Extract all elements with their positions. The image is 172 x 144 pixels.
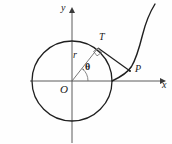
x-axis-label: x [162, 80, 166, 90]
y-axis-arrowhead [69, 7, 75, 13]
theta-label: θ [85, 62, 90, 72]
radius-label: r [73, 50, 77, 60]
involute-figure: y x O r θ T P [0, 0, 172, 144]
tangent-point-label: T [99, 32, 105, 42]
involute-curve [112, 4, 155, 81]
origin-label: O [60, 84, 68, 95]
y-axis [69, 7, 75, 143]
point-marker-P [129, 70, 131, 72]
x-axis [30, 78, 166, 84]
tangent-segment-TP [98, 48, 130, 71]
diagram-canvas [0, 0, 172, 144]
curve-point-label: P [135, 64, 141, 74]
y-axis-label: y [61, 3, 65, 13]
